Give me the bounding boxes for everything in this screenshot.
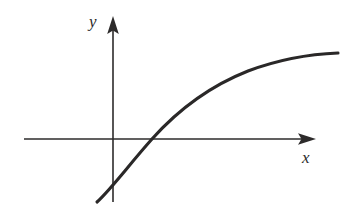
figure-canvas: y x [0,0,346,224]
x-axis-label: x [302,149,310,166]
plot-svg [0,0,346,224]
plot-curve [97,53,338,202]
y-axis-label: y [89,13,97,30]
